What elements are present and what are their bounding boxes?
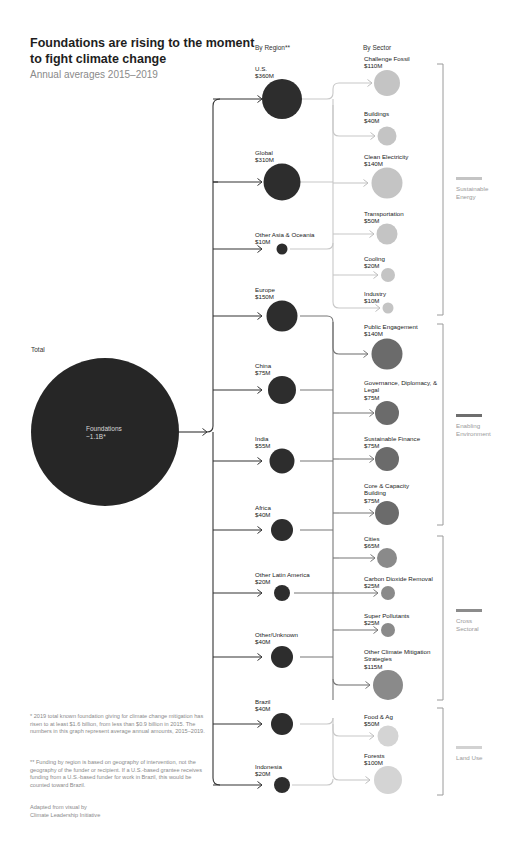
sector-label-other-climate: Other Climate Mitigation Strategies$115M [364, 648, 434, 670]
region-circle-us [262, 79, 302, 119]
page-title: Foundations are rising to the moment to … [30, 35, 260, 67]
column-header-by-region: By Region** [255, 44, 290, 51]
sector-label-challenge-fossil: Challenge Fossil$110M [364, 55, 410, 70]
total-label: Foundations ~1.1B* [86, 425, 122, 440]
region-label-africa: Africa$40M [255, 504, 271, 519]
region-label-brazil: Brazil$40M [255, 698, 270, 713]
region-label-other-asia-oceania: Other Asia & Oceania$10M [255, 231, 315, 246]
sector-label-buildings: Buildings$40M [364, 110, 389, 125]
sector-circle-transportation [377, 224, 398, 245]
sector-circle-public-engagement [372, 339, 403, 370]
total-value: ~1.1B* [86, 433, 122, 441]
total-name: Foundations [86, 425, 122, 433]
region-circle-china [268, 376, 296, 404]
legend-land-use: Land Use [456, 746, 483, 762]
column-header-by-sector: By Sector [363, 44, 391, 51]
sector-circle-food-ag [378, 726, 399, 747]
sector-label-governance: Governance, Diplomacy, & Legal$75M [364, 379, 446, 401]
sector-label-forests: Forests$100M [364, 752, 385, 767]
region-circle-brazil [271, 713, 293, 735]
sector-circle-core-capacity [375, 501, 399, 525]
sector-label-public-engagement: Public Engagement$140M [364, 323, 418, 338]
legend-swatch-cross-sectoral [456, 609, 482, 612]
sector-label-core-capacity: Core & Capacity Building$75M [364, 482, 426, 504]
legend-swatch-sustainable-energy [456, 177, 482, 180]
region-circle-other-unknown [271, 646, 293, 668]
sector-circles [372, 70, 404, 794]
column-header-total: Total [31, 346, 45, 353]
region-circle-india [270, 449, 295, 474]
region-outflows-dark [294, 316, 339, 700]
sector-circle-sustainable-finance [375, 447, 399, 471]
sector-circle-clean-electricity [372, 168, 403, 199]
region-circle-other-latin-america [274, 585, 290, 601]
sector-circle-cooling [381, 268, 395, 282]
sector-label-carbon-dioxide-removal: Carbon Dioxide Removal$25M [364, 575, 433, 590]
sector-label-clean-electricity: Clean Electricity$140M [364, 153, 408, 168]
legend-sustainable-energy: Sustainable Energy [456, 177, 488, 201]
region-label-europe: Europe$150M [255, 286, 275, 301]
sector-label-transportation: Transportation$50M [364, 210, 404, 225]
region-label-india: India$55M [255, 435, 270, 450]
region-label-us: U.S.$360M [255, 65, 274, 80]
sector-circle-forests [374, 766, 402, 794]
region-label-other-unknown: Other/Unknown$40M [255, 631, 298, 646]
region-circle-global [264, 164, 301, 201]
legend-cross-sectoral: Cross Sectoral [456, 609, 482, 633]
region-circle-europe [267, 301, 298, 332]
legend-swatch-land-use [456, 746, 482, 749]
total-connector [179, 99, 220, 785]
region-circle-africa [271, 519, 293, 541]
region-label-other-latin-america: Other Latin America$20M [255, 571, 310, 586]
sector-circle-buildings [378, 127, 397, 146]
legend-enabling-environment: Enabling Environment [456, 414, 491, 438]
sector-label-super-pollutants: Super Pollutants$25M [364, 612, 409, 627]
sector-circle-governance [375, 401, 399, 425]
region-label-china: China$75M [255, 362, 271, 377]
page-subtitle: Annual averages 2015–2019 [30, 69, 158, 80]
sector-circle-other-climate [373, 670, 403, 700]
sector-label-cities: Cities$65M [364, 535, 379, 550]
footnote-total: * 2019 total known foundation giving for… [30, 713, 210, 736]
sector-circle-cities [377, 548, 397, 568]
sector-circle-challenge-fossil [374, 70, 400, 96]
sector-label-cooling: Cooling$20M [364, 255, 385, 270]
region-label-global: Global$310M [255, 149, 274, 164]
sector-label-food-ag: Food & Ag$50M [364, 713, 393, 728]
sector-label-sustainable-finance: Sustainable Finance$75M [364, 435, 420, 450]
legend-swatch-enabling-environment [456, 414, 482, 417]
sector-label-industry: Industry$10M [364, 290, 386, 305]
region-circle-indonesia [274, 777, 290, 793]
footnote-region: ** Funding by region is based on geograp… [30, 759, 210, 789]
footnote-credit: Adapted from visual by Climate Leadershi… [30, 804, 210, 819]
group-brackets [437, 64, 443, 795]
region-label-indonesia: Indonesia$20M [255, 763, 282, 778]
